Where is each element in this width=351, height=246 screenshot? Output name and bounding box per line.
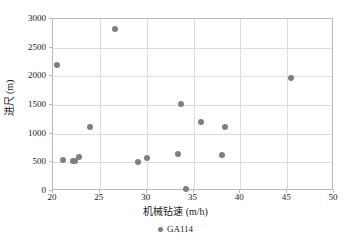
chart-legend: GA114 — [0, 224, 351, 234]
y-tick-label: 2500 — [0, 43, 46, 52]
data-point — [112, 26, 118, 32]
data-point — [219, 152, 225, 158]
data-point — [87, 124, 93, 130]
scatter-chart-figure: 进尺 (m) 050010001500200025003000 20253035… — [0, 0, 351, 246]
data-point — [222, 124, 228, 130]
legend-label: GA114 — [167, 224, 193, 234]
x-axis-title: 机械钻速 (m/h) — [0, 206, 351, 218]
data-point — [175, 151, 181, 157]
x-tick-label: 45 — [271, 193, 301, 202]
x-tick-label: 25 — [84, 193, 114, 202]
x-tick-label: 40 — [224, 193, 254, 202]
gridline-vertical — [147, 19, 148, 189]
gridline-vertical — [240, 19, 241, 189]
x-tick-label: 35 — [178, 193, 208, 202]
x-tick-label: 50 — [318, 193, 348, 202]
gridline-vertical — [194, 19, 195, 189]
gridline-horizontal — [53, 162, 332, 163]
x-tick-label: 20 — [37, 193, 67, 202]
gridline-horizontal — [53, 105, 332, 106]
data-point — [198, 119, 204, 125]
y-tick-label: 3000 — [0, 14, 46, 23]
gridline-vertical — [287, 19, 288, 189]
data-point — [54, 62, 60, 68]
gridline-horizontal — [53, 134, 332, 135]
gridline-vertical — [100, 19, 101, 189]
y-tick-label: 1000 — [0, 129, 46, 138]
y-tick-label: 1500 — [0, 100, 46, 109]
data-point — [178, 101, 184, 107]
data-point — [144, 155, 150, 161]
gridline-horizontal — [53, 48, 332, 49]
data-point — [135, 159, 141, 165]
legend-marker-icon — [158, 227, 163, 232]
x-tick-label: 30 — [131, 193, 161, 202]
y-tick-label: 500 — [0, 157, 46, 166]
data-point — [288, 75, 294, 81]
data-point — [76, 154, 82, 160]
y-tick-label: 2000 — [0, 71, 46, 80]
plot-area — [52, 18, 333, 190]
